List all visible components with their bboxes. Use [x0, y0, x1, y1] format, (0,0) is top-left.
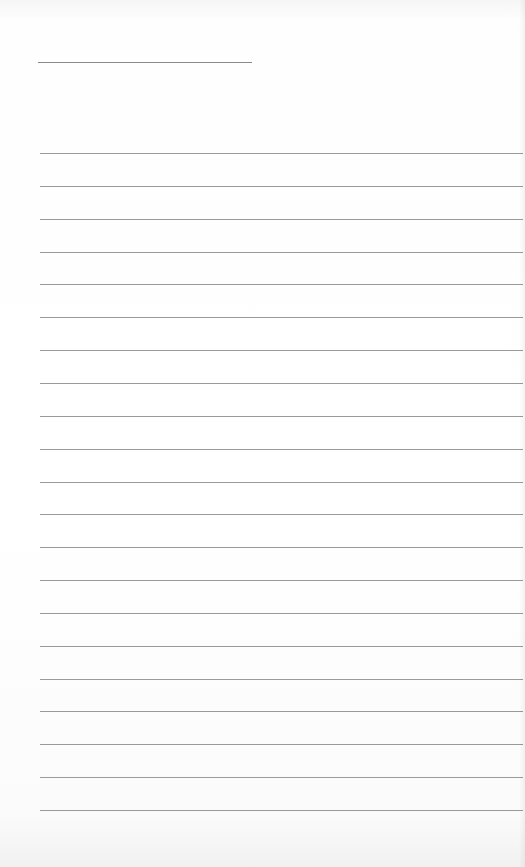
ruled-line — [40, 613, 523, 614]
ruled-line — [40, 777, 523, 778]
ruled-line — [40, 580, 523, 581]
paper-edge-shadow — [519, 0, 525, 867]
ruled-line — [40, 547, 523, 548]
ruled-line — [40, 186, 523, 187]
ruled-line — [40, 646, 523, 647]
ruled-line — [40, 383, 523, 384]
ruled-line — [40, 482, 523, 483]
ruled-line — [40, 514, 523, 515]
ruled-line — [40, 317, 523, 318]
ruled-line — [40, 449, 523, 450]
ruled-line — [40, 219, 523, 220]
ruled-line — [40, 153, 523, 154]
ruled-line — [40, 711, 523, 712]
ruled-line — [40, 284, 523, 285]
ruled-line — [40, 744, 523, 745]
ruled-line — [40, 416, 523, 417]
ruled-line — [40, 679, 523, 680]
lined-paper-sheet — [0, 0, 525, 867]
ruled-line — [40, 252, 523, 253]
title-line — [38, 62, 252, 63]
ruled-line — [40, 810, 523, 811]
ruled-line — [40, 350, 523, 351]
